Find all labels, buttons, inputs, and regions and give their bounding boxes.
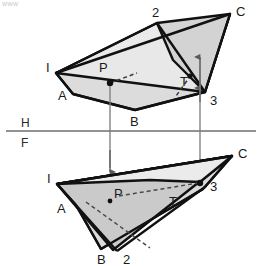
front-view-label-2: 2 <box>123 252 130 266</box>
reference-label-H: H <box>21 116 30 130</box>
front-view-label-C: C <box>238 146 247 161</box>
top-view-pierce-point-T <box>187 73 192 78</box>
front-view-label-P: P <box>114 186 123 201</box>
top-view-label-C: C <box>236 4 245 19</box>
front-view-label-I: I <box>47 171 51 186</box>
reference-label-F: F <box>21 136 28 150</box>
top-view-label-B: B <box>130 114 139 129</box>
front-view-pierce-point-P <box>108 199 113 204</box>
top-view-pierce-point-P <box>107 80 113 86</box>
descriptive-geometry-figure: www <box>0 0 261 266</box>
figure-canvas: I A B C 2 3 P T H F <box>0 0 261 266</box>
top-view-group: I A B C 2 3 P T <box>46 4 245 129</box>
top-view-label-A: A <box>58 88 67 103</box>
top-view-label-2: 2 <box>152 5 159 20</box>
front-view-label-3: 3 <box>210 179 217 194</box>
front-view-label-T: T <box>169 194 177 209</box>
front-view-label-A: A <box>57 201 66 216</box>
top-view-label-T: T <box>180 74 188 89</box>
top-view-label-P: P <box>99 60 108 75</box>
front-view-pierce-point-T <box>197 180 203 186</box>
top-view-label-I: I <box>46 60 50 75</box>
top-view-label-3: 3 <box>210 93 217 108</box>
front-view-group: I A B C 2 3 P T <box>47 146 247 266</box>
front-view-label-B: B <box>97 252 106 266</box>
